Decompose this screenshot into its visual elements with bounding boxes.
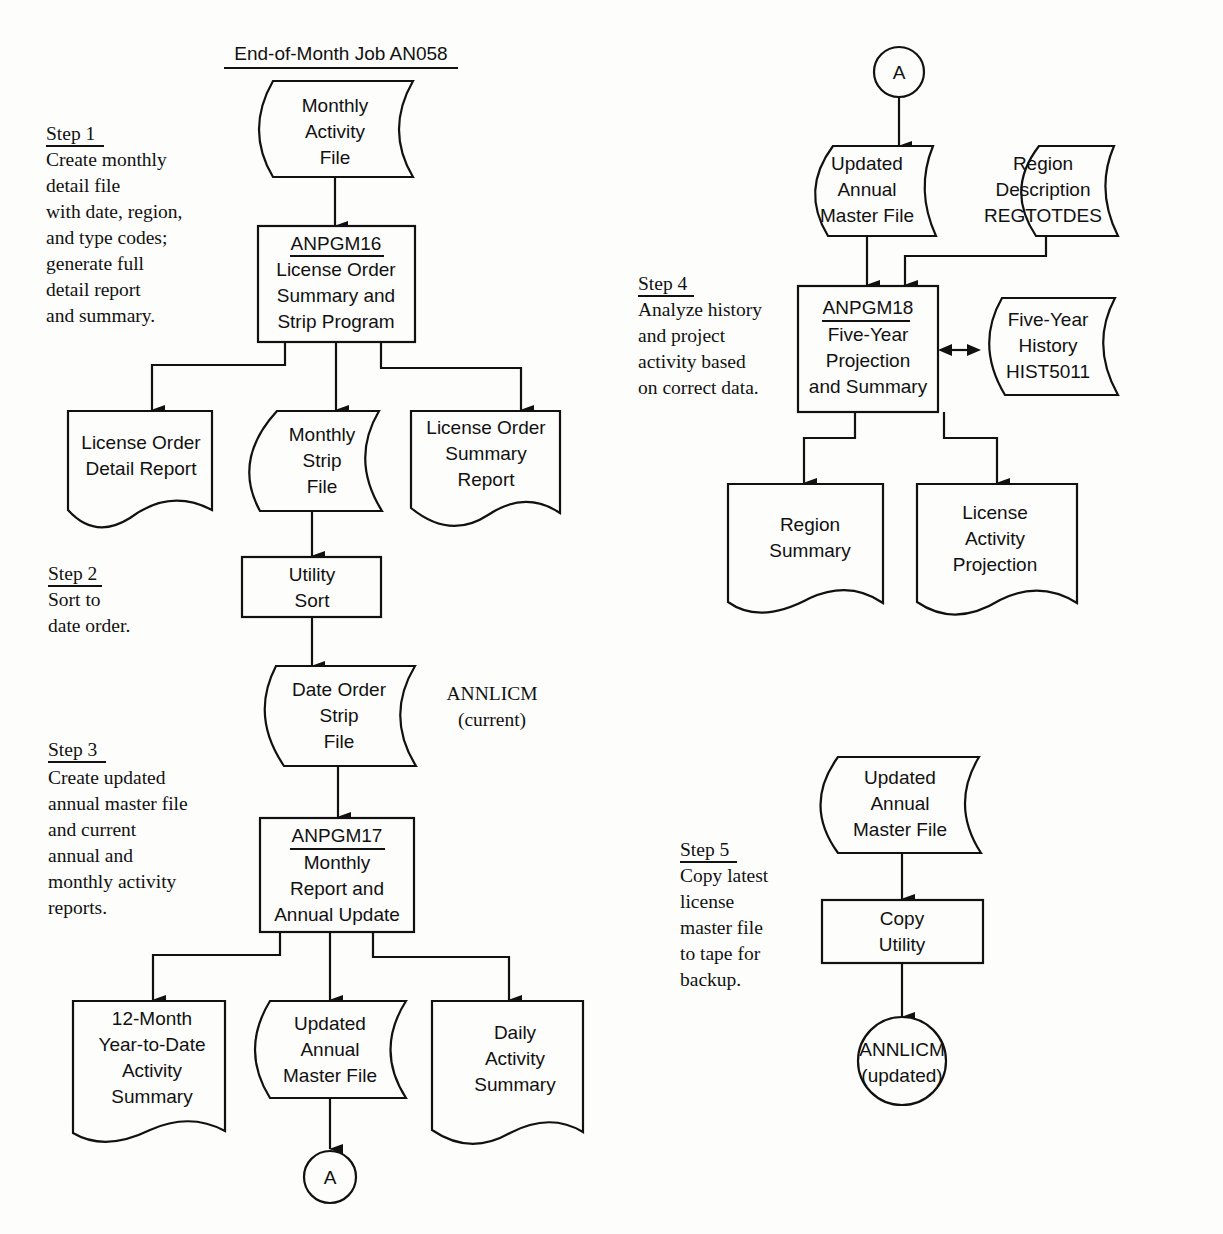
svg-text:A: A <box>893 62 906 83</box>
svg-text:Sort: Sort <box>295 590 331 611</box>
svg-text:detail file: detail file <box>46 175 120 196</box>
svg-text:Utility: Utility <box>289 564 336 585</box>
svg-text:Annual: Annual <box>870 793 929 814</box>
step-3-annotation: Step 3 Create updated annual master file… <box>48 739 188 918</box>
svg-text:Analyze history: Analyze history <box>638 299 762 320</box>
date-order-strip-file-node: Date Order Strip File <box>265 666 416 766</box>
updated-annual-master-file-node: Updated Annual Master File <box>255 1001 406 1098</box>
svg-text:and Summary: and Summary <box>809 376 928 397</box>
svg-text:reports.: reports. <box>48 897 107 918</box>
arrow <box>373 932 509 1000</box>
svg-text:File: File <box>320 147 351 168</box>
svg-text:Five-Year: Five-Year <box>1008 309 1089 330</box>
arrow <box>905 236 1046 285</box>
svg-text:Copy: Copy <box>880 908 925 929</box>
anpgm16-process-node: ANPGM16 License Order Summary and Strip … <box>258 226 415 342</box>
svg-text:backup.: backup. <box>680 969 741 990</box>
svg-text:Updated: Updated <box>831 153 903 174</box>
svg-text:Annual Update: Annual Update <box>274 904 400 925</box>
svg-text:Strip: Strip <box>302 450 341 471</box>
arrow <box>804 412 855 483</box>
svg-text:license: license <box>680 891 734 912</box>
annlicm-current-label: ANNLICM (current) <box>447 683 538 731</box>
five-year-history-file-node: Five-Year History HIST5011 <box>989 298 1118 395</box>
svg-text:to tape for: to tape for <box>680 943 761 964</box>
svg-text:Summary: Summary <box>474 1074 556 1095</box>
svg-text:Activity: Activity <box>965 528 1026 549</box>
arrow <box>381 342 521 410</box>
license-activity-projection-node: License Activity Projection <box>917 484 1077 615</box>
svg-text:on correct data.: on correct data. <box>638 377 759 398</box>
svg-text:Master File: Master File <box>853 819 947 840</box>
svg-text:Strip: Strip <box>319 705 358 726</box>
svg-text:Sort to: Sort to <box>48 589 101 610</box>
svg-text:ANPGM17: ANPGM17 <box>292 825 383 846</box>
copy-utility-process-node: Copy Utility <box>822 900 983 963</box>
step-2-annotation: Step 2 Sort to date order. <box>48 563 130 636</box>
svg-text:License Order: License Order <box>81 432 201 453</box>
svg-text:Projection: Projection <box>826 350 911 371</box>
ytd-activity-summary-node: 12-Month Year-to-Date Activity Summary <box>73 1001 225 1142</box>
region-description-file-node: Region Description REGTOTDES <box>984 146 1118 236</box>
svg-text:Summary and: Summary and <box>277 285 395 306</box>
svg-text:Step 1: Step 1 <box>46 123 95 144</box>
svg-text:ANPGM18: ANPGM18 <box>823 297 914 318</box>
monthly-strip-file-node: Monthly Strip File <box>249 411 382 511</box>
svg-text:License Order: License Order <box>426 417 546 438</box>
svg-text:date order.: date order. <box>48 615 130 636</box>
svg-text:Activity: Activity <box>122 1060 183 1081</box>
svg-text:Monthly: Monthly <box>302 95 369 116</box>
svg-text:master file: master file <box>680 917 763 938</box>
updated-annual-master-file-node: Updated Annual Master File <box>815 146 936 236</box>
svg-text:Activity: Activity <box>305 121 366 142</box>
region-summary-node: Region Summary <box>728 484 883 613</box>
svg-text:annual and: annual and <box>48 845 133 866</box>
daily-activity-summary-node: Daily Activity Summary <box>432 1001 583 1144</box>
svg-text:Activity: Activity <box>485 1048 546 1069</box>
svg-text:12-Month: 12-Month <box>112 1008 192 1029</box>
svg-text:History: History <box>1018 335 1078 356</box>
step-5-annotation: Step 5 Copy latest license master file t… <box>680 839 769 990</box>
utility-sort-process-node: Utility Sort <box>242 557 381 617</box>
svg-text:Report and: Report and <box>290 878 384 899</box>
svg-text:Annual: Annual <box>300 1039 359 1060</box>
monthly-activity-file-node: Monthly Activity File <box>259 81 413 177</box>
svg-text:ANNLICM: ANNLICM <box>447 683 538 704</box>
svg-text:Step 5: Step 5 <box>680 839 729 860</box>
anpgm17-process-node: ANPGM17 Monthly Report and Annual Update <box>260 818 414 932</box>
svg-text:and current: and current <box>48 819 137 840</box>
svg-text:Region: Region <box>780 514 840 535</box>
svg-text:Strip Program: Strip Program <box>277 311 394 332</box>
svg-text:Projection: Projection <box>953 554 1038 575</box>
license-order-summary-report-node: License Order Summary Report <box>411 411 560 526</box>
arrow <box>153 932 280 1000</box>
svg-text:Monthly: Monthly <box>304 852 371 873</box>
svg-text:Step 3: Step 3 <box>48 739 97 760</box>
svg-text:ANPGM16: ANPGM16 <box>291 233 382 254</box>
svg-text:REGTOTDES: REGTOTDES <box>984 205 1102 226</box>
svg-text:and summary.: and summary. <box>46 305 155 326</box>
svg-text:ANNLICM: ANNLICM <box>859 1039 945 1060</box>
svg-text:Updated: Updated <box>294 1013 366 1034</box>
svg-text:Year-to-Date: Year-to-Date <box>98 1034 205 1055</box>
svg-text:(current): (current) <box>458 709 526 731</box>
svg-text:detail report: detail report <box>46 279 141 300</box>
arrow <box>944 412 997 483</box>
svg-text:Five-Year: Five-Year <box>828 324 909 345</box>
svg-text:File: File <box>324 731 355 752</box>
step-4-annotation: Step 4 Analyze history and project activ… <box>638 273 762 398</box>
svg-text:Report: Report <box>457 469 515 490</box>
svg-text:HIST5011: HIST5011 <box>1006 361 1090 382</box>
svg-text:generate full: generate full <box>46 253 145 274</box>
svg-text:Summary: Summary <box>445 443 527 464</box>
svg-text:Copy latest: Copy latest <box>680 865 769 886</box>
svg-text:Daily: Daily <box>494 1022 537 1043</box>
svg-text:License Order: License Order <box>276 259 396 280</box>
svg-text:with date, region,: with date, region, <box>46 201 182 222</box>
anpgm18-process-node: ANPGM18 Five-Year Projection and Summary <box>798 286 938 412</box>
connector-a-outgoing: A <box>304 1151 356 1203</box>
annlicm-updated-terminal-node: ANNLICM (updated) <box>858 1017 946 1105</box>
svg-text:Monthly: Monthly <box>289 424 356 445</box>
svg-text:activity based: activity based <box>638 351 746 372</box>
svg-text:Create monthly: Create monthly <box>46 149 167 170</box>
